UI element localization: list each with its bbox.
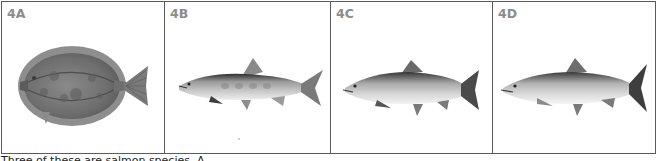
panel-label: 4C bbox=[336, 6, 354, 21]
panel-label: 4A bbox=[7, 6, 25, 21]
panel-4b: 4B bbox=[165, 2, 331, 153]
figure-caption: Three of these are salmon species. A... bbox=[1, 154, 215, 161]
panel-4a: 4A bbox=[2, 2, 165, 153]
salmon-image bbox=[175, 58, 325, 118]
speck bbox=[238, 138, 240, 140]
salmon-image bbox=[501, 58, 651, 120]
panel-label: 4B bbox=[170, 6, 188, 21]
panel-label: 4D bbox=[498, 6, 517, 21]
panel-4c: 4C bbox=[331, 2, 493, 153]
figure-grid: 4A bbox=[1, 1, 656, 154]
panel-4d: 4D bbox=[493, 2, 655, 153]
flatfish-image bbox=[14, 42, 154, 130]
salmon-image bbox=[343, 60, 483, 120]
